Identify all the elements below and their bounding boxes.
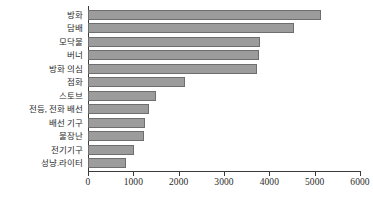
y-axis-tick-label: 방화 bbox=[67, 11, 88, 20]
x-axis-tick bbox=[88, 172, 89, 176]
x-axis-tick-label: 1000 bbox=[124, 177, 143, 187]
y-axis-tick-label: 모닥불 bbox=[59, 38, 88, 47]
x-axis-tick-label: 5000 bbox=[305, 177, 324, 187]
bar bbox=[88, 145, 134, 155]
bar bbox=[88, 50, 259, 60]
y-axis-tick-label: 불장난 bbox=[59, 132, 88, 141]
bar bbox=[88, 158, 126, 168]
x-axis-tick-label: 6000 bbox=[350, 177, 369, 187]
x-axis-tick-label: 3000 bbox=[214, 177, 233, 187]
y-axis-tick-label: 담배 bbox=[67, 24, 88, 33]
y-axis-tick-label: 스토브 bbox=[59, 92, 88, 101]
y-axis-tick-label: 전기기구 bbox=[51, 146, 88, 155]
bar-chart: 방화담배모닥불버너방화 의심점화스토브전등, 전화 배선배선 기구불장난전기기구… bbox=[0, 0, 373, 201]
bar bbox=[88, 64, 257, 74]
bar bbox=[88, 77, 185, 87]
y-axis-tick-label: 전등, 전화 배선 bbox=[29, 105, 88, 114]
y-axis-tick-label: 성냥.라이터 bbox=[41, 159, 88, 168]
bar bbox=[88, 23, 294, 33]
bar bbox=[88, 10, 321, 20]
y-axis-tick-label: 점화 bbox=[67, 78, 88, 87]
bar bbox=[88, 131, 144, 141]
bar bbox=[88, 37, 260, 47]
bar bbox=[88, 91, 156, 101]
x-axis-tick bbox=[179, 172, 180, 176]
y-axis-tick-label: 버너 bbox=[67, 51, 88, 60]
x-axis-tick bbox=[269, 172, 270, 176]
x-axis-tick-label: 4000 bbox=[260, 177, 279, 187]
x-axis-tick-label: 0 bbox=[86, 177, 91, 187]
bar bbox=[88, 118, 145, 128]
x-axis-tick bbox=[133, 172, 134, 176]
x-axis-tick-label: 2000 bbox=[169, 177, 188, 187]
y-axis-tick-label: 배선 기구 bbox=[49, 119, 88, 128]
x-axis-tick bbox=[315, 172, 316, 176]
y-axis-tick-label: 방화 의심 bbox=[49, 65, 88, 74]
bar bbox=[88, 104, 149, 114]
x-axis-tick bbox=[224, 172, 225, 176]
x-axis-tick bbox=[360, 172, 361, 176]
plot-area bbox=[88, 8, 360, 170]
